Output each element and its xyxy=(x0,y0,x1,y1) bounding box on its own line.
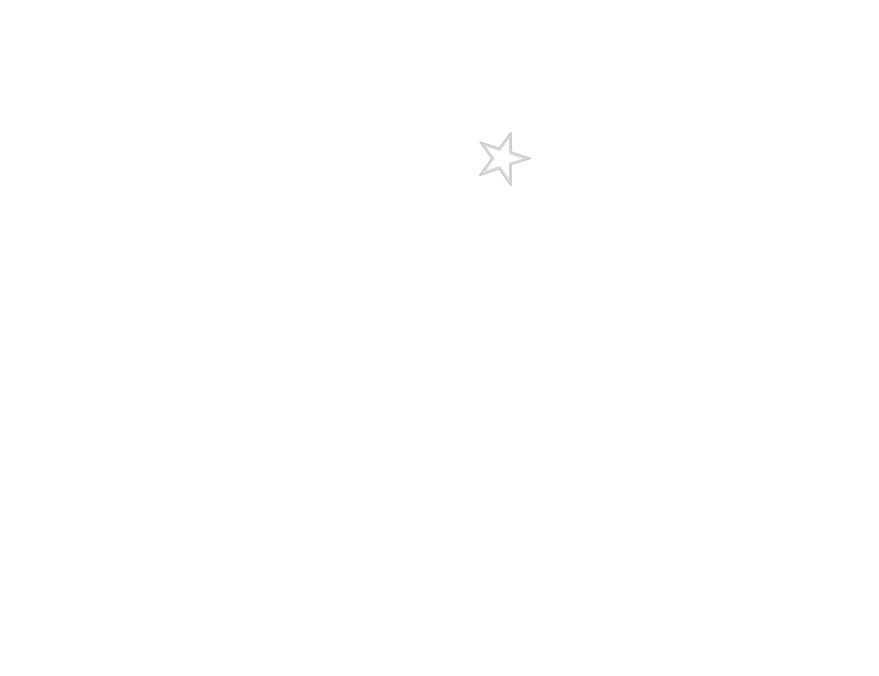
annotation-retention-note xyxy=(172,175,205,314)
bar-chart xyxy=(0,0,879,676)
annotation-line-1 xyxy=(178,209,186,210)
star-icon xyxy=(466,120,539,193)
annotation-line-3 xyxy=(193,278,199,279)
